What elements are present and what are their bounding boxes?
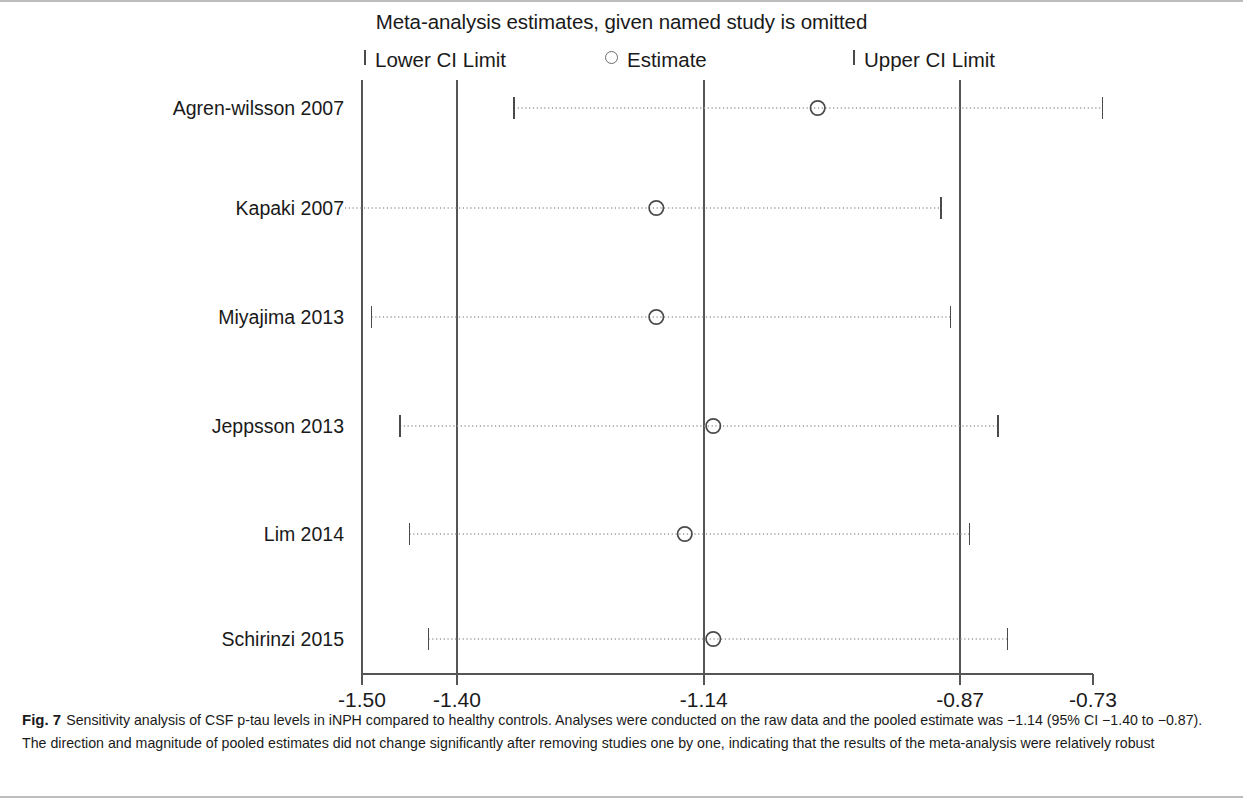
y-axis-label-study: Kapaki 2007 [236, 197, 344, 220]
forest-row [514, 97, 1103, 119]
y-axis-label-study: Lim 2014 [264, 523, 344, 546]
caption-body: Sensitivity analysis of CSF p-tau levels… [22, 712, 1202, 751]
forest-row [345, 197, 941, 219]
forest-row [371, 306, 950, 328]
y-axis-label-study: Schirinzi 2015 [222, 628, 344, 651]
forest-row [409, 523, 969, 545]
y-axis-label-study: Agren-wilsson 2007 [173, 97, 344, 120]
y-axis-label-study: Miyajima 2013 [218, 306, 344, 329]
forest-plot: Meta-analysis estimates, given named stu… [0, 2, 1243, 702]
figure-frame: Meta-analysis estimates, given named stu… [0, 0, 1243, 798]
forest-row [400, 415, 998, 437]
y-axis-label-study: Jeppsson 2013 [212, 415, 344, 438]
forest-row [428, 628, 1007, 650]
figure-number: Fig. 7 [22, 711, 61, 728]
figure-caption: Fig. 7Sensitivity analysis of CSF p-tau … [22, 708, 1225, 755]
